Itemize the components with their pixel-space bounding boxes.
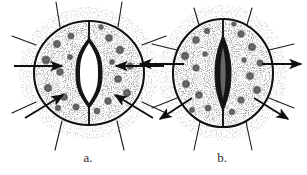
stomata-figure-canvas: a. — [0, 0, 307, 175]
panel-a-caption: a. — [83, 150, 92, 165]
figure-root: a. — [0, 0, 307, 175]
panel-b-caption: b. — [217, 150, 227, 165]
